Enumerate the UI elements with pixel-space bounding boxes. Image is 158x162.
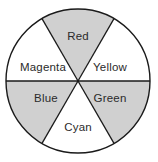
wedge-label-green: Green <box>94 92 127 104</box>
wedge-label-red: Red <box>67 30 89 42</box>
wedge-label-cyan: Cyan <box>64 121 92 133</box>
wedge-label-magenta: Magenta <box>20 61 67 73</box>
wedge-label-blue: Blue <box>34 92 58 104</box>
color-wheel-svg: RedYellowGreenCyanBlueMagenta <box>0 0 158 162</box>
wedge-label-yellow: Yellow <box>93 61 128 73</box>
color-wheel-figure: RedYellowGreenCyanBlueMagenta <box>0 0 158 162</box>
